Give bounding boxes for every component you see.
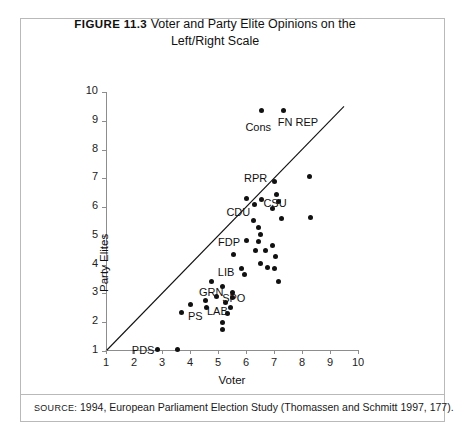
x-tick	[274, 350, 275, 354]
y-tick	[102, 150, 106, 151]
x-tick-label: 9	[318, 356, 342, 368]
x-tick-label: 5	[206, 356, 230, 368]
figure-number: FIGURE 11.3	[74, 18, 147, 30]
point-label: RPR	[244, 172, 267, 184]
source-text: 1994, European Parliament Election Study…	[80, 401, 454, 413]
point-label: CDU	[226, 206, 250, 218]
x-tick	[302, 350, 303, 354]
x-tick-label: 10	[346, 356, 370, 368]
data-point	[263, 248, 268, 253]
x-tick-label: 4	[178, 356, 202, 368]
point-label: FN REP	[278, 116, 318, 128]
y-axis-title: Party Elites	[98, 234, 110, 292]
data-point	[258, 232, 263, 237]
data-point	[175, 347, 180, 352]
figure-title: FIGURE 11.3 Voter and Party Elite Opinio…	[40, 16, 390, 50]
data-point	[244, 196, 249, 201]
point-label: LAB	[207, 305, 228, 317]
y-tick-label: 6	[78, 199, 98, 211]
data-point	[244, 238, 249, 243]
point-label: FDP	[218, 236, 240, 248]
data-point	[307, 174, 312, 179]
data-point	[273, 254, 278, 259]
y-tick-label: 7	[78, 170, 98, 182]
data-point	[258, 261, 263, 266]
data-point	[220, 320, 225, 325]
point-label: Cons	[245, 121, 271, 133]
y-tick-label: 5	[78, 228, 98, 240]
x-tick	[218, 350, 219, 354]
data-point	[272, 179, 277, 184]
point-label: PS	[188, 310, 203, 322]
x-tick	[246, 350, 247, 354]
y-tick	[102, 92, 106, 93]
data-point	[251, 218, 256, 223]
data-point	[220, 327, 225, 332]
source-divider	[21, 394, 444, 395]
figure-title-line1: Voter and Party Elite Opinions on the	[151, 17, 356, 31]
x-tick	[330, 350, 331, 354]
data-point	[203, 298, 208, 303]
x-tick-label: 8	[290, 356, 314, 368]
y-tick	[102, 351, 106, 352]
data-point	[274, 192, 279, 197]
x-tick	[106, 350, 107, 354]
point-label: PDS	[132, 344, 155, 356]
y-tick	[102, 178, 106, 179]
x-axis-title: Voter	[106, 374, 358, 386]
data-point	[265, 265, 270, 270]
data-point	[308, 215, 313, 220]
x-tick-label: 1	[94, 356, 118, 368]
y-tick-label: 4	[78, 257, 98, 269]
x-tick	[162, 350, 163, 354]
y-tick-label: 10	[78, 84, 98, 96]
point-label: SPO	[222, 292, 245, 304]
y-tick	[102, 322, 106, 323]
x-tick-label: 6	[234, 356, 258, 368]
reference-line	[106, 92, 358, 351]
x-tick	[190, 350, 191, 354]
x-tick-label: 7	[262, 356, 286, 368]
y-tick	[102, 121, 106, 122]
point-label: GRN	[199, 286, 223, 298]
data-point	[279, 216, 284, 221]
x-tick-label: 2	[122, 356, 146, 368]
x-tick	[358, 350, 359, 354]
y-tick-label: 2	[78, 314, 98, 326]
data-point	[179, 310, 184, 315]
scatter-plot: 12345678910 12345678910 ConsFN REPRPRCSU…	[106, 92, 358, 350]
y-tick	[102, 207, 106, 208]
point-label: CSU	[263, 197, 286, 209]
y-tick-label: 3	[78, 285, 98, 297]
data-point	[252, 202, 257, 207]
y-tick-label: 8	[78, 142, 98, 154]
figure-title-line2: Left/Right Scale	[171, 34, 259, 48]
point-label: LIB	[218, 266, 235, 278]
source-note: SOURCE: 1994, European Parliament Electi…	[34, 401, 454, 413]
data-point	[231, 252, 236, 257]
y-tick	[102, 293, 106, 294]
x-tick-label: 3	[150, 356, 174, 368]
source-prefix: SOURCE:	[34, 403, 77, 413]
y-tick-label: 9	[78, 113, 98, 125]
data-point	[256, 225, 261, 230]
y-tick-label: 1	[78, 343, 98, 355]
